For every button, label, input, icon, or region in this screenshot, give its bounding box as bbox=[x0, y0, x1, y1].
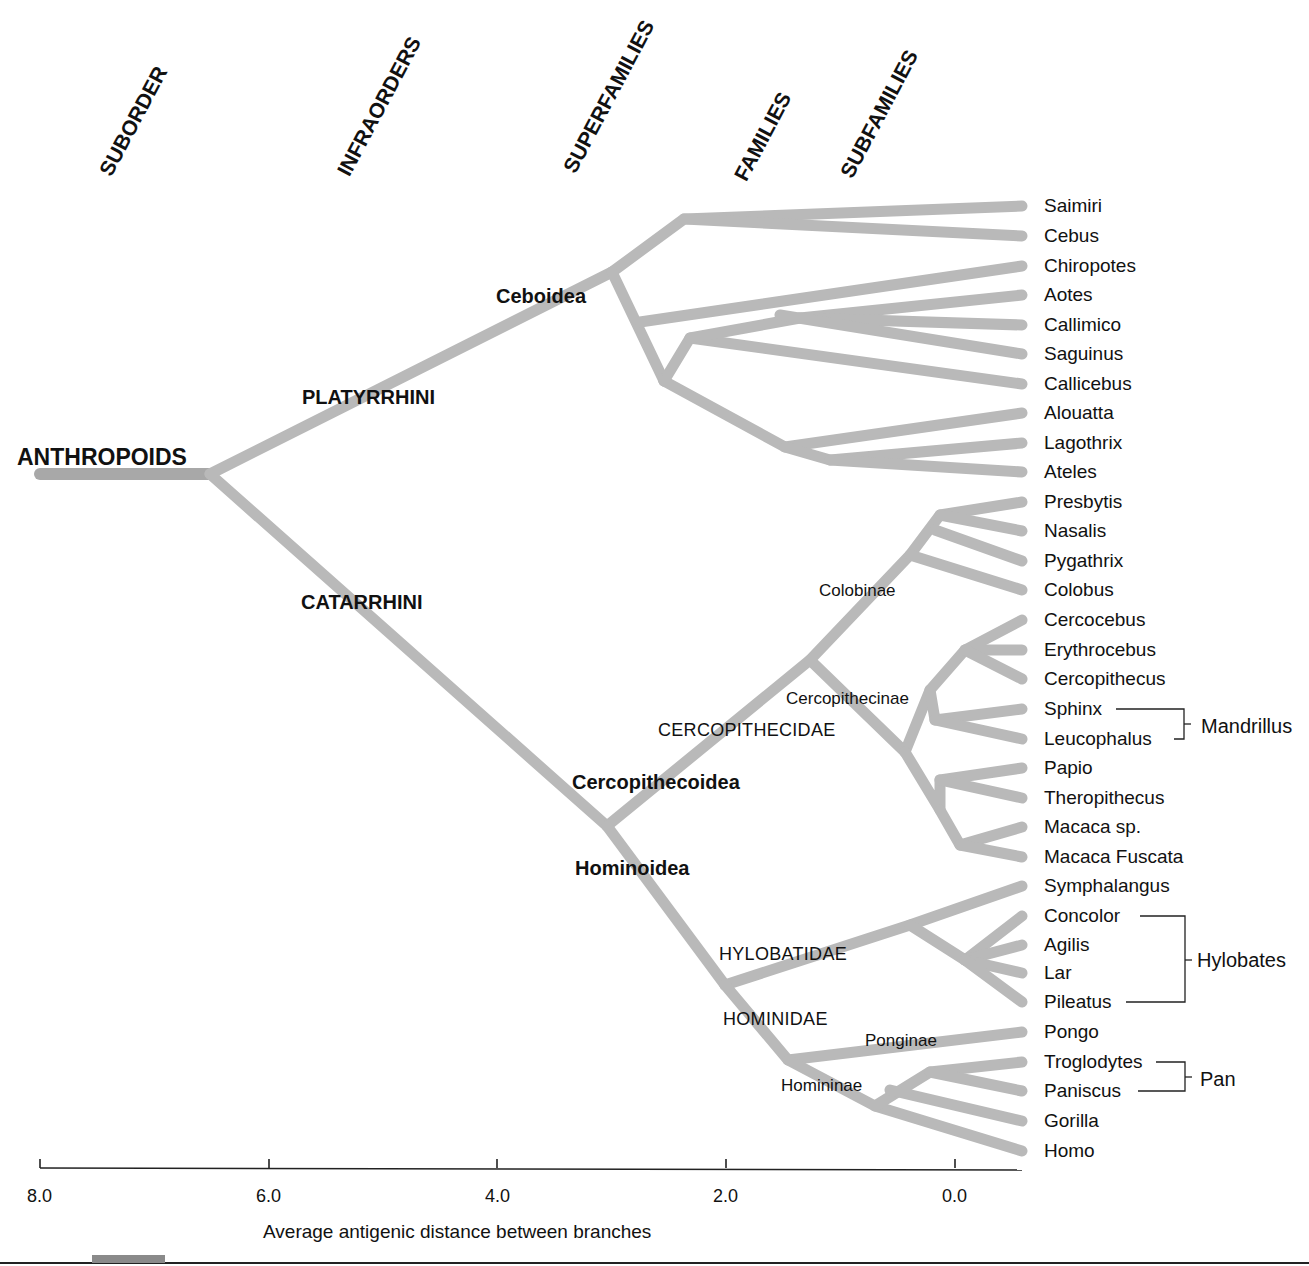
leaf-label: Leucophalus bbox=[1044, 729, 1152, 748]
leaf-label: Cercocebus bbox=[1044, 610, 1145, 629]
leaf-label: Callimico bbox=[1044, 315, 1121, 334]
leaf-label: Sphinx bbox=[1044, 699, 1102, 718]
leaf-label: Paniscus bbox=[1044, 1081, 1121, 1100]
leaf-label: Alouatta bbox=[1044, 403, 1114, 422]
taxon-hominidae: HOMINIDAE bbox=[723, 1010, 828, 1028]
leaf-label: Symphalangus bbox=[1044, 876, 1170, 895]
leaf-label: Macaca Fuscata bbox=[1044, 847, 1183, 866]
leaf-label: Troglodytes bbox=[1044, 1052, 1143, 1071]
taxon-anthropoids: ANTHROPOIDS bbox=[17, 446, 187, 469]
taxon-ponginae: Ponginae bbox=[865, 1032, 937, 1049]
x-axis-line bbox=[40, 1159, 1022, 1170]
genus-label-pan: Pan bbox=[1200, 1069, 1236, 1089]
leaf-label: Pygathrix bbox=[1044, 551, 1123, 570]
leaf-label: Pongo bbox=[1044, 1022, 1099, 1041]
genus-label-mandrillus: Mandrillus bbox=[1201, 716, 1292, 736]
leaf-label: Lar bbox=[1044, 963, 1071, 982]
leaf-label: Macaca sp. bbox=[1044, 817, 1141, 836]
x-tick-label: 2.0 bbox=[713, 1187, 738, 1205]
x-tick-label: 8.0 bbox=[27, 1187, 52, 1205]
leaf-label: Nasalis bbox=[1044, 521, 1106, 540]
leaf-label: Cebus bbox=[1044, 226, 1099, 245]
leaf-label: Cercopithecus bbox=[1044, 669, 1165, 688]
taxon-homininae: Homininae bbox=[781, 1077, 862, 1094]
leaf-label: Saimiri bbox=[1044, 196, 1102, 215]
taxon-catarrhini: CATARRHINI bbox=[301, 592, 422, 612]
taxon-cercopithecidae: CERCOPITHECIDAE bbox=[658, 721, 836, 739]
leaf-label: Chiropotes bbox=[1044, 256, 1136, 275]
taxon-cercopithecoidea: Cercopithecoidea bbox=[572, 772, 740, 792]
x-tick-label: 4.0 bbox=[485, 1187, 510, 1205]
page-bottom-rule bbox=[0, 1262, 1309, 1264]
leaf-label: Colobus bbox=[1044, 580, 1114, 599]
taxon-colobinae: Colobinae bbox=[819, 582, 896, 599]
leaf-label: Callicebus bbox=[1044, 374, 1132, 393]
leaf-label: Gorilla bbox=[1044, 1111, 1099, 1130]
leaf-label: Concolor bbox=[1044, 906, 1120, 925]
leaf-label: Erythrocebus bbox=[1044, 640, 1156, 659]
page-bottom-tab bbox=[92, 1255, 165, 1263]
leaf-label: Theropithecus bbox=[1044, 788, 1164, 807]
leaf-label: Ateles bbox=[1044, 462, 1097, 481]
taxon-ceboidea: Ceboidea bbox=[496, 286, 586, 306]
leaf-label: Papio bbox=[1044, 758, 1093, 777]
taxon-cercopithecinae: Cercopithecinae bbox=[786, 690, 909, 707]
leaf-label: Saguinus bbox=[1044, 344, 1123, 363]
x-tick-label: 6.0 bbox=[256, 1187, 281, 1205]
leaf-label: Homo bbox=[1044, 1141, 1095, 1160]
phylogenetic-tree-figure: SUBORDER INFRAORDERS SUPERFAMILIES FAMIL… bbox=[0, 0, 1309, 1266]
leaf-label: Agilis bbox=[1044, 935, 1089, 954]
genus-label-hylobates: Hylobates bbox=[1197, 950, 1286, 970]
taxon-platyrrhini: PLATYRRHINI bbox=[302, 387, 435, 407]
genus-brackets bbox=[1116, 709, 1192, 1091]
leaf-label: Lagothrix bbox=[1044, 433, 1122, 452]
tree-branches bbox=[0, 0, 1309, 1266]
taxon-hominoidea: Hominoidea bbox=[575, 858, 689, 878]
x-tick-label: 0.0 bbox=[942, 1187, 967, 1205]
x-axis-title: Average antigenic distance between branc… bbox=[263, 1222, 651, 1241]
leaf-label: Pileatus bbox=[1044, 992, 1112, 1011]
leaf-label: Aotes bbox=[1044, 285, 1093, 304]
taxon-hylobatidae: HYLOBATIDAE bbox=[719, 945, 847, 963]
leaf-label: Presbytis bbox=[1044, 492, 1122, 511]
